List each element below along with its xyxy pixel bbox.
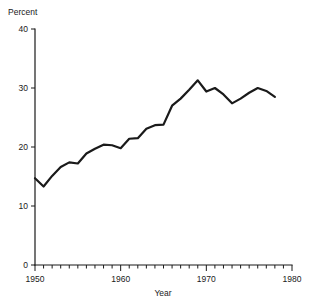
y-tick-label: 30 — [19, 83, 29, 93]
line-chart: Percent 010203040 1950196019701980 Year — [0, 0, 316, 301]
y-tick-label: 20 — [19, 142, 29, 152]
y-axis-ticks: 010203040 — [19, 24, 35, 270]
x-tick-label: 1950 — [26, 274, 45, 284]
y-tick-label: 10 — [19, 201, 29, 211]
x-tick-label: 1980 — [283, 274, 302, 284]
x-tick-label: 1970 — [197, 274, 216, 284]
y-tick-label: 40 — [19, 24, 29, 34]
y-axis-title: Percent — [8, 7, 38, 17]
x-axis-ticks — [35, 265, 292, 271]
y-tick-label: 0 — [23, 260, 28, 270]
x-axis-title: Year — [154, 288, 171, 298]
data-series-line — [35, 80, 275, 186]
x-axis-tick-labels: 1950196019701980 — [26, 274, 302, 284]
x-tick-label: 1960 — [111, 274, 130, 284]
